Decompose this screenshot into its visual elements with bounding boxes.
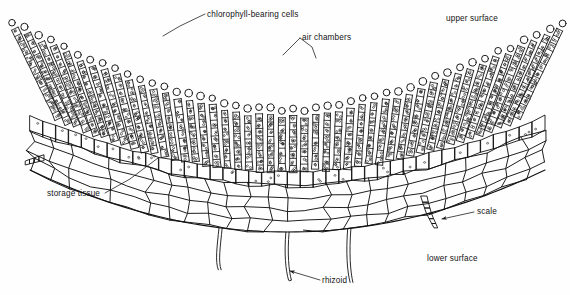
cell-cross-wall <box>368 141 374 142</box>
filament-base-wall <box>203 166 210 167</box>
cell-cross-wall <box>213 159 220 160</box>
cell-cross-wall <box>209 104 216 105</box>
cell-cross-wall <box>199 119 206 120</box>
cell-cross-wall <box>369 133 375 134</box>
label-storage-tissue: storage tissue <box>47 189 100 198</box>
label-lower-surface: lower surface <box>427 254 478 263</box>
cell-cross-wall <box>212 144 219 145</box>
cell-cross-wall <box>201 143 207 144</box>
cell-cross-wall <box>370 110 376 111</box>
cell-cross-wall <box>359 104 365 105</box>
label-chlorophyll-bearing-cells: chlorophyll-bearing cells <box>207 10 299 19</box>
filament-wall <box>267 115 268 173</box>
cell-cross-wall <box>198 103 204 104</box>
cell-cross-wall <box>355 158 362 159</box>
cell-cross-wall <box>356 143 363 144</box>
label-rhizoid: rhizoid <box>322 276 347 285</box>
cell-cross-wall <box>210 112 217 113</box>
cell-cross-wall <box>212 151 219 152</box>
label-upper-surface: upper surface <box>446 14 498 23</box>
cell-cross-wall <box>359 112 365 113</box>
diagram-canvas: chlorophyll-bearing cellsair chambersupp… <box>0 0 570 295</box>
cell-cross-wall <box>367 148 373 149</box>
liverwort-thallus-diagram: chlorophyll-bearing cellsair chambersupp… <box>0 0 570 295</box>
filament-wall <box>308 118 309 172</box>
label-scale: scale <box>477 207 497 216</box>
cell-cross-wall <box>371 103 377 104</box>
cell-cross-wall <box>211 128 218 129</box>
label-air-chambers: air chambers <box>302 33 351 42</box>
cell-cross-wall <box>356 151 362 152</box>
filament-base-wall <box>366 163 372 164</box>
cell-cross-wall <box>367 156 373 157</box>
